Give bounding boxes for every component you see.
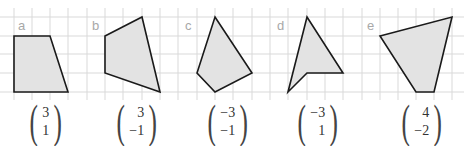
right-paren-icon: ) [330,99,338,145]
left-paren-icon: ( [297,99,305,145]
right-paren-icon: ) [54,99,62,145]
left-paren-icon: ( [207,99,215,145]
vector-e-bottom: −2 [414,122,429,140]
vector-a-bottom: 1 [42,122,49,140]
left-paren-icon: ( [29,99,37,145]
left-paren-icon: ( [116,99,124,145]
figure-label-e: e [367,18,374,33]
vector-c-top: −3 [220,104,235,122]
vector-e: ( 4−2 ) [398,100,446,144]
vector-a-top: 3 [42,104,49,122]
vector-d-bottom: 1 [318,122,325,140]
figure-label-b: b [92,18,99,33]
figure-label-d: d [277,18,284,33]
vector-c-bottom: −1 [220,122,235,140]
vector-b-bottom: −1 [129,122,144,140]
vector-b-top: 3 [137,104,144,122]
vector-c: ( −3−1 ) [204,100,252,144]
vector-b: ( 3−1 ) [113,100,161,144]
figure-label-a: a [18,18,25,33]
shape-a [14,36,68,92]
right-paren-icon: ) [240,99,248,145]
left-paren-icon: ( [401,99,409,145]
right-paren-icon: ) [434,99,442,145]
vector-d-top: −3 [310,104,325,122]
vector-d: ( −31 ) [294,100,342,144]
figure-label-c: c [185,18,192,33]
shape-b [105,17,160,92]
vector-a: ( 31 ) [26,100,66,144]
right-paren-icon: ) [149,99,157,145]
vector-e-top: 4 [422,104,429,122]
